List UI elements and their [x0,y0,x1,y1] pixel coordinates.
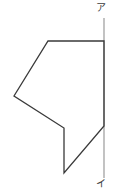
axis-label-bottom: イ [96,179,106,189]
axis-label-top: ア [96,3,106,13]
figure-canvas [0,0,118,196]
polygon-shape [14,41,104,173]
geometry-figure: ア イ [0,0,118,196]
